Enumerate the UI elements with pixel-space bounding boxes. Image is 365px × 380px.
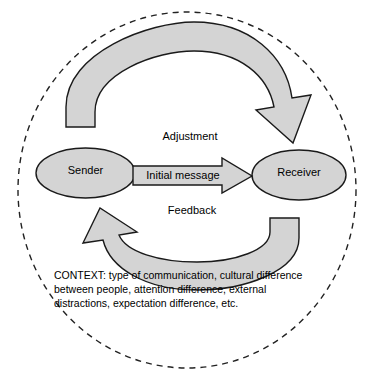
communication-model-diagram: Sender Receiver Initial message Adjustme…: [0, 0, 365, 380]
receiver-node-label: Receiver: [252, 167, 346, 178]
diagram-canvas: [0, 0, 365, 380]
initial-message-label: Initial message: [133, 170, 233, 181]
context-description-text: CONTEXT: type of communication, cultural…: [54, 268, 322, 310]
feedback-label: Feedback: [142, 205, 242, 216]
adjustment-arrow-shape: [66, 22, 311, 143]
adjustment-label: Adjustment: [140, 131, 240, 142]
sender-node-label: Sender: [36, 165, 135, 176]
